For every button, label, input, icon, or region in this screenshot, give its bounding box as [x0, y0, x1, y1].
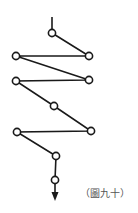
node-8 — [13, 128, 20, 135]
node-7 — [87, 127, 94, 134]
figure-caption: （圖九十） — [80, 185, 130, 200]
node-4 — [85, 76, 92, 83]
node-2 — [85, 52, 92, 59]
node-1 — [48, 29, 55, 36]
node-5 — [12, 77, 19, 84]
arrow-down-icon — [52, 192, 59, 201]
exit-arrow — [52, 184, 59, 201]
node-3 — [12, 52, 19, 59]
node-10 — [51, 176, 58, 183]
node-6 — [50, 102, 57, 109]
zigzag-path-diagram — [0, 0, 138, 213]
node-9 — [52, 152, 59, 159]
